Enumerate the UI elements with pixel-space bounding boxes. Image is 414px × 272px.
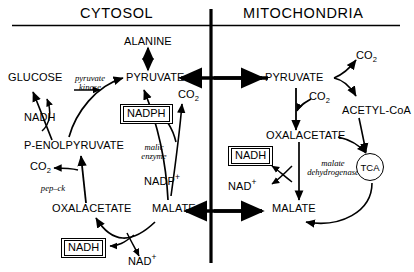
enzyme-malate-dehydrogenase: malate dehydrogenase [302,159,364,177]
nad-superscript: + [152,252,157,262]
metabolite-co2-pepck: CO2 [30,161,51,175]
pathway-diagram: CYTOSOL MITOCHONDRIA ALANINE GLUCOSE PYR… [0,0,414,272]
metabolite-pep: P-ENOLPYRUVATE [24,140,124,151]
enzyme-malic-enzyme: malic enzyme [133,143,175,161]
arrow-pdh-co2 [334,60,356,78]
metabolite-oxalacetate-mitochondria: OXALACETATE [266,130,346,141]
co2-subscript: 2 [195,94,199,103]
boxed-nadh-label: NADH [231,148,270,164]
co2-text: CO [30,160,47,172]
nad-text: NAD [128,255,152,267]
compartment-title-cytosol: CYTOSOL [80,6,153,21]
boxed-nadh-label: NADH [64,240,103,256]
metabolite-co2-cytosol-malic: CO2 [178,89,199,103]
boxed-nadph-label: NADPH [123,106,170,122]
metabolite-pyruvate-cytosol: PYRUVATE [126,72,184,83]
co2-text: CO [309,90,326,102]
metabolite-nad-plus-cytosol: NAD+ [128,253,157,267]
metabolite-pyruvate-mitochondria: PYRUVATE [265,72,323,83]
metabolite-alanine: ALANINE [124,36,172,47]
metabolite-malate-cytosol: MALATE [152,203,196,214]
metabolite-nad-plus-mitochondria: NAD+ [228,178,257,192]
enzyme-line-2: kinase [79,82,101,92]
co2-text: CO [178,88,195,100]
arrow-malate-to-oxalacetate-cyt [96,218,155,238]
metabolite-co2-pdh: CO2 [356,50,377,64]
co2-subscript: 2 [373,55,377,64]
boxed-nadph-cytosol: NADPH [120,104,173,124]
nadp-superscript: + [175,172,180,182]
enzyme-line-2: dehydrogenase [307,167,359,177]
boxed-nadh-cytosol: NADH [61,238,106,258]
metabolite-malate-mitochondria: MALATE [272,203,316,214]
metabolite-acetyl-coa: ACETYL-CoA [342,105,411,116]
arrow-pyruvate-to-acetylcoa [334,78,356,96]
tca-cycle-node: TCA [356,153,384,181]
nad-superscript: + [252,177,257,187]
metabolite-nadp-plus: NADP+ [144,173,180,187]
co2-subscript: 2 [326,96,330,105]
arrow-tca-to-malate [306,183,372,223]
nadp-text: NADP [144,175,175,187]
co2-subscript: 2 [47,166,51,175]
co2-text: CO [356,49,373,61]
arrow-oxalacetate-to-pep [81,156,86,203]
boxed-nadh-mitochondria: NADH [228,146,273,166]
metabolite-glucose-cytosol: GLUCOSE [8,72,63,83]
enzyme-pepck: pep–ck [32,184,74,193]
enzyme-line-2: enzyme [141,151,166,161]
metabolite-oxalacetate-cytosol: OXALACETATE [52,203,132,214]
metabolite-nadh-gluconeogenesis: NADH [24,112,56,123]
compartment-title-mitochondria: MITOCHONDRIA [243,6,364,21]
enzyme-pyruvate-kinase: pyruvate kinase [61,74,119,92]
diagram-arrows-layer [0,0,414,272]
arrow-pepck-co2 [54,168,78,170]
nad-text: NAD [228,180,252,192]
metabolite-co2-pyruvate-carboxylase: CO2 [309,91,330,105]
